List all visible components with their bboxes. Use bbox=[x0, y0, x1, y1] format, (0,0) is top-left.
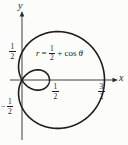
equation-theta: θ bbox=[78, 49, 82, 58]
equation-fraction: 1 2 bbox=[49, 45, 56, 62]
minus-sign: − bbox=[1, 103, 6, 111]
tick-x-half-numerator: 1 bbox=[52, 83, 59, 92]
tick-x-half-denominator: 2 bbox=[54, 92, 58, 100]
tick-y-half-numerator: 1 bbox=[9, 43, 16, 52]
equation-var-r: r bbox=[36, 49, 40, 58]
tick-y-neg-numerator: 1 bbox=[7, 98, 14, 107]
limacon-curve-canvas bbox=[0, 0, 128, 145]
tick-y-neg-fraction: 1 2 bbox=[7, 98, 14, 115]
equation-fraction-denominator: 2 bbox=[50, 54, 54, 62]
equation-plus-sign: + bbox=[57, 49, 62, 58]
equation-cos-function: cos bbox=[64, 49, 76, 58]
tick-y-neg-denominator: 2 bbox=[8, 107, 12, 115]
equation-equals-sign: = bbox=[42, 49, 47, 58]
tick-label-x-three-halves: 3 2 bbox=[98, 83, 105, 100]
x-axis-label: x bbox=[119, 73, 123, 83]
tick-y-half-denominator: 2 bbox=[11, 52, 15, 60]
polar-plot-figure: y x 1 2 − 1 2 1 2 3 2 r = 1 2 + cos θ bbox=[0, 0, 128, 145]
tick-label-y-half: 1 2 bbox=[9, 43, 16, 60]
tick-label-y-neg-half: − 1 2 bbox=[1, 98, 13, 115]
tick-x-three-halves-denominator: 2 bbox=[100, 92, 104, 100]
tick-x-three-halves-numerator: 3 bbox=[98, 83, 105, 92]
curve-equation-annotation: r = 1 2 + cos θ bbox=[36, 44, 83, 62]
y-axis-label: y bbox=[18, 1, 22, 11]
tick-label-x-half: 1 2 bbox=[52, 83, 59, 100]
